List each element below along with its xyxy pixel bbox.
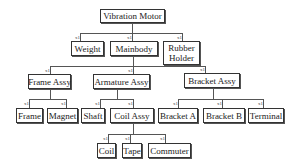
connector (29, 99, 67, 100)
node-bracket-assy: Bracket Assy (184, 73, 240, 88)
node-weight: Weight (71, 41, 104, 56)
bom-tree-diagram: x1 x1 x1 x1 x1 x1 x1 x1 x1 x1 x1 x1 x1 x… (0, 0, 298, 166)
connector (80, 33, 81, 41)
quantity-label-terminal: x1 (258, 101, 263, 106)
node-tape: Tape (122, 143, 142, 158)
node-terminal: Terminal (248, 108, 284, 123)
node-rubber-holder-line2: Holder (169, 53, 194, 63)
connector (165, 134, 166, 143)
node-frame: Frame (16, 108, 43, 123)
quantity-label-frame-assy: x1 (45, 68, 50, 73)
node-commuter: Commuter (148, 143, 191, 158)
node-bracket-b: Bracket B (203, 108, 245, 123)
connector (132, 33, 133, 41)
node-vibration-motor: Vibration Motor (100, 9, 165, 23)
node-rubber-holder-line1: Rubber (168, 43, 195, 53)
quantity-label-shaft: x1 (95, 101, 100, 106)
node-rubber-holder: Rubber Holder (163, 41, 200, 65)
connector (133, 99, 134, 108)
quantity-label-armature-assy: x1 (128, 68, 133, 73)
connector (66, 99, 67, 108)
quantity-label-coil: x1 (103, 136, 108, 141)
node-coil-assy: Coil Assy (110, 108, 154, 123)
quantity-label-coil-assy: x1 (128, 101, 133, 106)
connector (213, 88, 214, 99)
quantity-label-frame: x1 (24, 101, 29, 106)
connector (222, 99, 223, 108)
connector (133, 123, 134, 134)
node-mainbody: Mainbody (110, 41, 158, 56)
connector (108, 134, 166, 135)
quantity-label-mainbody: x1 (127, 35, 132, 40)
connector (130, 134, 131, 143)
quantity-label-bracket-a: x1 (173, 101, 178, 106)
quantity-label-rubber-holder: x1 (177, 35, 182, 40)
connector (133, 66, 134, 74)
connector (263, 99, 264, 108)
connector (29, 99, 30, 108)
node-coil: Coil (97, 143, 116, 158)
connector (50, 66, 206, 67)
quantity-label-bracket-assy: x1 (200, 67, 205, 72)
connector (50, 66, 51, 74)
node-frame-assy: Frame Assy (28, 74, 71, 89)
connector (100, 99, 134, 100)
connector (50, 89, 51, 99)
node-shaft: Shaft (81, 108, 105, 123)
connector (133, 56, 134, 66)
connector (178, 99, 179, 108)
node-magnet: Magnet (47, 108, 78, 123)
quantity-label-weight: x1 (75, 35, 80, 40)
connector (205, 66, 206, 73)
connector (132, 23, 133, 33)
quantity-label-magnet: x1 (61, 101, 66, 106)
connector (108, 134, 109, 143)
quantity-label-commuter: x1 (160, 136, 165, 141)
connector (117, 89, 118, 99)
node-armature-assy: Armature Assy (93, 74, 150, 89)
quantity-label-tape: x1 (125, 136, 130, 141)
node-bracket-a: Bracket A (158, 108, 198, 123)
connector (178, 99, 264, 100)
quantity-label-bracket-b: x1 (217, 101, 222, 106)
connector (100, 99, 101, 108)
connector (182, 33, 183, 41)
